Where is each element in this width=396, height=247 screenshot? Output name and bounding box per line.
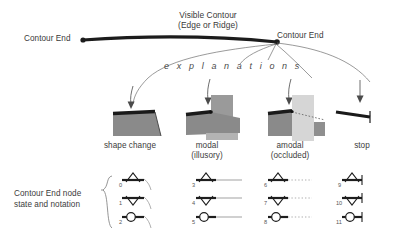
explanation-fan (133, 43, 370, 104)
amodal-hidden-contour-dotted (292, 112, 325, 120)
amodal-body-right (314, 122, 325, 136)
case-label-amodal: amodal (occluded) (252, 141, 328, 161)
legend-label-line1: Contour End node (14, 188, 108, 199)
amodal-top-contour (268, 111, 292, 114)
arrowhead-modal (205, 98, 212, 106)
visible-contour-title-line1: Visible Contour (148, 10, 268, 20)
state-number-8: 8 (264, 219, 267, 225)
explanations-label: e x p l a n a t i o n s (158, 61, 308, 71)
sym-0-peak (126, 173, 140, 182)
arrow-curve-shape-change (131, 86, 133, 104)
state-number-4: 4 (192, 200, 195, 206)
case-label-modal: modal (illusory) (172, 141, 242, 161)
arrowhead-stop (357, 96, 364, 104)
state-number-0: 0 (119, 182, 122, 188)
state-number-9: 9 (338, 182, 341, 188)
case-label-amodal-line1: amodal (252, 141, 328, 151)
sym-8-circle (272, 213, 281, 222)
figure-canvas: Visible Contour (Edge or Ridge) Contour … (0, 0, 396, 247)
sym-1-tail (144, 197, 151, 209)
case-arrows (131, 79, 360, 104)
sym-11-circle (346, 213, 355, 222)
arrowhead-shape-change (128, 102, 135, 110)
contour-end-label-right: Contour End (277, 31, 324, 41)
case-label-amodal-line2: (occluded) (252, 151, 328, 161)
fan-curve-3 (268, 44, 276, 60)
state-number-6: 6 (264, 182, 267, 188)
notation-col-stop (342, 173, 362, 222)
case-label-stop: stop (337, 141, 387, 151)
case-label-modal-line2: (illusory) (172, 151, 242, 161)
contour-end-dot-left (80, 37, 85, 42)
sym-7-valley (271, 196, 285, 205)
modal-top-contour (186, 112, 211, 115)
case-shape-change-illustration (113, 112, 161, 137)
sym-4-valley (199, 196, 213, 205)
legend-label: Contour End node state and notation (14, 188, 108, 210)
arrow-curve-amodal (289, 79, 291, 100)
shape-change-body (113, 112, 161, 136)
visible-contour-line (83, 37, 277, 42)
arrowhead-amodal (286, 98, 293, 106)
case-modal-illustration (186, 95, 240, 140)
sym-6-peak (271, 173, 285, 182)
fan-curve-1 (133, 44, 276, 104)
sym-10-valley (345, 196, 359, 205)
sym-5-circle (200, 213, 209, 222)
state-number-10: 10 (336, 200, 342, 206)
case-label-modal-line1: modal (172, 141, 242, 151)
visible-contour-title: Visible Contour (Edge or Ridge) (148, 10, 268, 30)
modal-vertical-bar (211, 95, 233, 140)
state-number-3: 3 (192, 182, 195, 188)
amodal-body-left (268, 111, 292, 136)
sym-2-tail (144, 216, 151, 228)
sym-2-circle (127, 213, 136, 222)
sym-3-peak (199, 173, 213, 182)
case-stop-illustration (336, 111, 370, 123)
notation-col-modal (196, 173, 242, 221)
modal-body-left (186, 112, 240, 135)
modal-body-shadow (206, 133, 238, 140)
case-label-shape-change: shape change (90, 141, 170, 151)
arrow-curve-modal (208, 79, 210, 100)
state-number-2: 2 (119, 219, 122, 225)
visible-contour-group (80, 37, 279, 45)
sym-9-peak (345, 173, 359, 182)
shape-change-right-edge (155, 112, 161, 136)
state-number-1: 1 (119, 200, 122, 206)
legend-label-line2: state and notation (14, 199, 108, 210)
notation-col-amodal (268, 173, 312, 221)
case-amodal-illustration (268, 95, 325, 141)
case-label-stop-line1: stop (337, 141, 387, 151)
notation-col-shape-change (122, 173, 151, 228)
case-arrowheads (128, 96, 364, 110)
state-number-11: 11 (336, 219, 342, 225)
state-number-7: 7 (264, 200, 267, 206)
modal-contour-end-dot (209, 110, 213, 114)
state-number-5: 5 (192, 219, 195, 225)
stop-contour-line (336, 112, 370, 117)
shape-change-top-contour (113, 112, 155, 114)
case-label-shape-change-line1: shape change (90, 141, 170, 151)
amodal-contour-end-dot (290, 110, 293, 113)
contour-end-label-left: Contour End (24, 34, 71, 44)
visible-contour-title-line2: (Edge or Ridge) (148, 20, 268, 30)
amodal-occluder-bar (292, 95, 314, 141)
sym-1-valley (126, 196, 140, 205)
sym-0-tail (144, 179, 151, 190)
